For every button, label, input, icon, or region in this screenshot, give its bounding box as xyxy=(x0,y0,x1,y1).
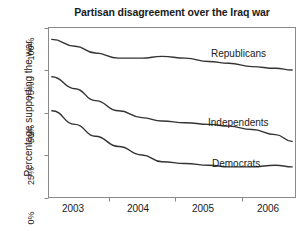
x-tick-marks xyxy=(110,198,243,202)
series-label-independents: Independents xyxy=(208,117,269,128)
chart-figure: Partisan disagreement over the Iraq war … xyxy=(0,0,307,231)
series-label-democrats: Democrats xyxy=(212,158,260,169)
plot-area xyxy=(0,0,307,231)
series-label-republicans: Republicans xyxy=(211,48,266,59)
series-line-independents xyxy=(52,77,292,142)
y-tick-marks xyxy=(45,29,49,199)
